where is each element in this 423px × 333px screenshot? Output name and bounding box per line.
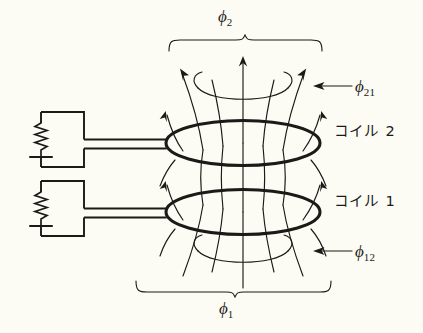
- flux-lines-upper: [182, 60, 304, 150]
- flux-label-phi1: ϕ1: [219, 300, 234, 320]
- source-circuit-coil2: [41, 112, 84, 167]
- phi2-subscript: 2: [227, 16, 233, 28]
- phi21-subscript: 21: [364, 86, 375, 98]
- coil-2-leads: [84, 140, 167, 149]
- figure-root: ϕ2 ϕ1 ϕ21 ϕ12 コイル 2 コイル 1: [0, 0, 423, 333]
- phi12-subscript: 12: [364, 251, 375, 263]
- phi21-symbol: ϕ: [355, 77, 364, 96]
- flux-label-phi21: ϕ21: [355, 78, 375, 98]
- flux-label-phi12: ϕ12: [355, 243, 375, 263]
- coil-label-1: コイル 1: [334, 194, 396, 209]
- phi2-symbol: ϕ: [218, 7, 227, 26]
- coil-1-leads: [84, 209, 167, 218]
- resistor-icon-coil2: [35, 123, 47, 157]
- phi1-symbol: ϕ: [219, 299, 228, 318]
- source-circuit-coil1: [41, 181, 84, 236]
- phi1-subscript: 1: [228, 308, 234, 320]
- phi12-symbol: ϕ: [355, 242, 364, 261]
- flux-lines-between-coils: [201, 143, 286, 212]
- brace-top-phi2: [169, 35, 322, 51]
- coupled-coils-diagram: [0, 0, 423, 333]
- flux-label-phi2: ϕ2: [218, 8, 233, 28]
- flux-lines-lower: [183, 205, 303, 288]
- resistor-icon-coil1: [35, 192, 47, 226]
- coil-label-2: コイル 2: [334, 124, 396, 139]
- brace-bottom-phi1: [136, 281, 331, 297]
